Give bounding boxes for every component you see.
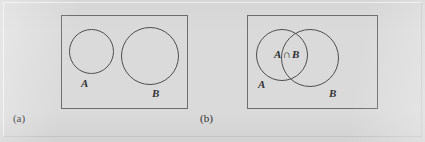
intersection-symbol-icon: ∩: [282, 48, 292, 60]
panel-caption-b: (b): [100, 113, 313, 124]
set-circle-a-panel-a: [69, 29, 114, 74]
set-a-label-panel-a: A: [81, 78, 88, 89]
set-a-label-panel-b: A: [258, 79, 265, 90]
intersection-right-operand: B: [292, 48, 300, 60]
set-circle-b-panel-a: [121, 27, 179, 85]
venn-diagram-figure: A B (a) A∩B A B (b): [0, 0, 425, 142]
set-b-label-panel-a: B: [152, 88, 159, 99]
intersection-label-panel-b: A∩B: [274, 48, 300, 60]
set-b-label-panel-b: B: [329, 88, 336, 99]
intersection-left-operand: A: [274, 48, 282, 60]
